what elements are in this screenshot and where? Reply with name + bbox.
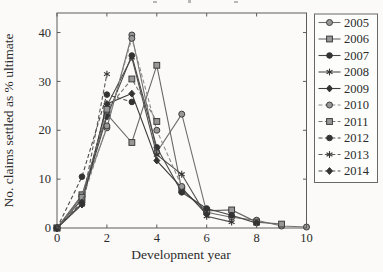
series-line-2007 — [57, 56, 257, 229]
series-2010 — [54, 35, 185, 231]
series-line-2005 — [57, 35, 307, 228]
x-tick-label: 10 — [300, 231, 313, 245]
y-tick-label: 20 — [39, 123, 52, 137]
series-2006 — [54, 62, 284, 231]
legend-label: 2006 — [344, 32, 369, 46]
legend-label: 2012 — [344, 131, 369, 145]
legend: 2005200620072008200920102011201220132014 — [315, 14, 378, 183]
y-axis-label: No. claims settled as % ultimate — [1, 34, 16, 208]
series-2011 — [54, 76, 160, 231]
legend-label: 2009 — [344, 82, 369, 96]
x-axis-label: Development year — [131, 247, 231, 262]
series-line-2006 — [57, 65, 282, 228]
y-tick-label: 30 — [39, 75, 52, 89]
claims-settlement-chart: 0246810010203040 Development year No. cl… — [0, 0, 383, 272]
axis-layer: 0246810010203040 — [39, 13, 313, 245]
y-tick-label: 0 — [45, 221, 51, 235]
x-tick-label: 8 — [253, 231, 259, 245]
legend-label: 2011 — [344, 115, 369, 129]
series-line-2010 — [57, 38, 182, 228]
x-tick-label: 6 — [204, 231, 210, 245]
series-2013 — [54, 71, 110, 232]
legend-label: 2010 — [344, 98, 369, 112]
series-2009 — [54, 90, 210, 231]
y-tick-label: 40 — [39, 26, 52, 40]
y-tick-label: 10 — [39, 172, 52, 186]
x-tick-label: 0 — [54, 231, 60, 245]
legend-label: 2005 — [344, 16, 369, 30]
x-tick-label: 4 — [154, 231, 161, 245]
plot-frame — [57, 13, 307, 228]
series-2005 — [54, 32, 310, 231]
x-tick-label: 2 — [104, 231, 110, 245]
legend-label: 2008 — [344, 65, 369, 79]
legend-label: 2007 — [344, 49, 369, 63]
legend-label: 2014 — [344, 164, 370, 178]
series-layer — [54, 32, 310, 231]
legend-label: 2013 — [344, 148, 369, 162]
